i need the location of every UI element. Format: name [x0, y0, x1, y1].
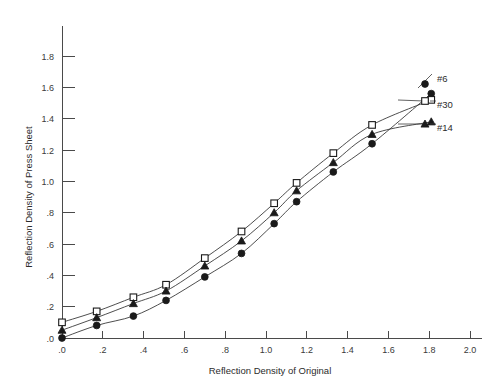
- marker-open-square: [202, 255, 209, 262]
- y-tick-label: .0: [46, 334, 54, 344]
- marker-filled-triangle: [201, 262, 209, 269]
- y-tick-label: .4: [46, 271, 54, 281]
- marker-filled-triangle: [293, 187, 301, 194]
- x-tick-label: 1.2: [301, 345, 314, 355]
- x-tick-label: 1.4: [341, 345, 354, 355]
- marker-filled-triangle: [329, 159, 337, 166]
- x-tick-label: .0: [58, 345, 66, 355]
- marker-filled-circle: [271, 220, 278, 227]
- y-tick-label: .6: [46, 240, 54, 250]
- marker-filled-circle: [369, 140, 376, 147]
- chart-container: .0.2.4.6.81.01.21.41.61.82.0 .0.2.4.6.81…: [0, 0, 493, 391]
- x-tick-label: 1.0: [260, 345, 273, 355]
- marker-filled-circle: [163, 297, 170, 304]
- series-n30: [59, 97, 435, 326]
- y-tick-label: .2: [46, 302, 54, 312]
- marker-filled-circle: [238, 250, 245, 257]
- x-tick-label: 1.6: [382, 345, 395, 355]
- marker-open-square: [428, 97, 435, 104]
- marker-open-square: [293, 180, 300, 187]
- x-tick-label: .4: [140, 345, 148, 355]
- marker-filled-circle: [293, 198, 300, 205]
- legend-label-n30: #30: [437, 99, 453, 110]
- legend-label-n14: #14: [437, 122, 453, 133]
- x-tick-label: 2.0: [464, 345, 477, 355]
- legend: #6#30#14: [398, 73, 453, 133]
- x-tick-label: .6: [181, 345, 189, 355]
- marker-open-square: [271, 200, 278, 207]
- marker-open-square: [422, 98, 429, 105]
- x-tick-label: .8: [221, 345, 229, 355]
- marker-filled-triangle: [58, 326, 66, 333]
- marker-filled-circle: [422, 81, 429, 88]
- y-tick-label: 1.6: [41, 83, 54, 93]
- series-line: [62, 94, 431, 338]
- data-series-group: [58, 90, 435, 341]
- marker-filled-circle: [93, 322, 100, 329]
- marker-filled-circle: [428, 90, 435, 97]
- series-n14: [58, 118, 435, 333]
- marker-filled-circle: [59, 335, 66, 342]
- marker-filled-circle: [201, 274, 208, 281]
- y-tick-label: .8: [46, 208, 54, 218]
- series-line: [62, 122, 431, 330]
- marker-filled-circle: [130, 313, 137, 320]
- y-tick-labels: .0.2.4.6.81.01.21.41.61.8: [41, 52, 54, 344]
- scatter-plot: .0.2.4.6.81.01.21.41.61.82.0 .0.2.4.6.81…: [0, 0, 493, 391]
- x-axis-title: Reflection Density of Original: [209, 365, 332, 376]
- marker-open-square: [238, 228, 245, 235]
- marker-filled-triangle: [368, 130, 376, 137]
- y-tick-label: 1.8: [41, 52, 54, 62]
- y-tick-label: 1.2: [41, 146, 54, 156]
- y-axis-title: Reflection Density of Press Sheet: [23, 126, 34, 268]
- marker-filled-circle: [330, 169, 337, 176]
- legend-label-n6: #6: [437, 73, 448, 84]
- marker-open-square: [369, 122, 376, 129]
- y-tick-label: 1.0: [41, 177, 54, 187]
- tick-marks: [62, 56, 470, 338]
- x-tick-labels: .0.2.4.6.81.01.21.41.61.82.0: [58, 345, 476, 355]
- marker-open-square: [330, 150, 337, 157]
- marker-filled-triangle: [238, 237, 246, 244]
- axes: [62, 26, 482, 338]
- marker-open-square: [59, 319, 66, 326]
- legend-leader-line: [398, 100, 424, 101]
- y-tick-label: 1.4: [41, 114, 54, 124]
- x-tick-label: 1.8: [423, 345, 436, 355]
- series-n6: [59, 90, 435, 341]
- x-tick-label: .2: [99, 345, 107, 355]
